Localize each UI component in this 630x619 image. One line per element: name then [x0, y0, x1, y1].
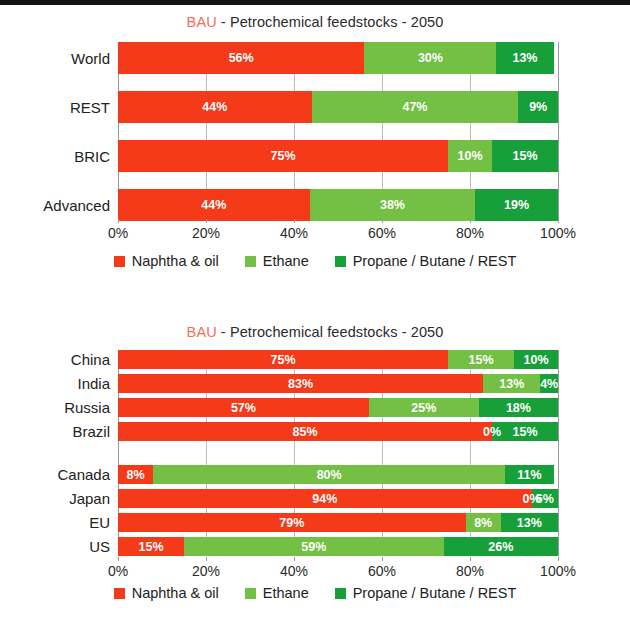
legend-swatch-icon — [245, 256, 256, 267]
axis-tick-label: 80% — [456, 563, 484, 579]
bar-segment: 15% — [118, 537, 184, 556]
bar-segment-label: 0% — [483, 425, 501, 439]
chart-row-spacer — [118, 446, 558, 465]
bar-segment: 15% — [448, 350, 514, 369]
legend-item-naphtha[interactable]: Naphtha & oil — [114, 253, 219, 269]
bar-segment: 13% — [501, 513, 558, 532]
bar-segment-label: 30% — [418, 51, 443, 65]
axis-tick-label: 40% — [280, 225, 308, 241]
bar-segment: 25% — [369, 398, 479, 417]
bar-segment-label: 75% — [270, 353, 295, 367]
bar-segment-label: 13% — [499, 377, 524, 391]
chart-bottom-title-accent: BAU — [187, 324, 217, 340]
category-label: BRIC — [6, 140, 118, 172]
axis-tick-label: 0% — [108, 563, 128, 579]
bar-segment: 9% — [518, 91, 558, 123]
bar-segment-label: 44% — [201, 198, 226, 212]
bar-segment: 57% — [118, 398, 369, 417]
category-label: World — [6, 42, 118, 74]
category-label: Japan — [6, 489, 118, 508]
bar-segment-label: 10% — [523, 353, 548, 367]
bar-segment: 44% — [118, 91, 312, 123]
bar-segment-label: 9% — [529, 100, 547, 114]
bar-segment-label: 18% — [506, 401, 531, 415]
bar-segment-label: 83% — [288, 377, 313, 391]
bar-segment: 15% — [492, 422, 558, 441]
chart-row: EU79%8%13% — [118, 513, 558, 532]
gridline-100 — [558, 42, 559, 221]
bar-segment-label: 44% — [202, 100, 227, 114]
chart-row: Brazil85%0%15% — [118, 422, 558, 441]
bar-segment-label: 15% — [512, 149, 537, 163]
bar-segment: 75% — [118, 140, 448, 172]
legend-item-ethane[interactable]: Ethane — [245, 585, 309, 601]
axis-tick-label: 80% — [456, 225, 484, 241]
chart-top-x-axis: 0%20%40%60%80%100% — [118, 223, 558, 245]
bar-segment: 85% — [118, 422, 492, 441]
chart-top-rows: World56%30%13%REST44%47%9%BRIC75%10%15%A… — [118, 42, 558, 221]
chart-row: Advanced44%38%19% — [118, 189, 558, 221]
legend-item-ethane[interactable]: Ethane — [245, 253, 309, 269]
bar-segment: 79% — [118, 513, 466, 532]
bar-segment: 8% — [466, 513, 501, 532]
axis-tick-label: 100% — [540, 225, 576, 241]
bar-segment: 30% — [364, 42, 496, 74]
axis-tick-label: 60% — [368, 225, 396, 241]
legend-item-propane[interactable]: Propane / Butane / REST — [335, 585, 517, 601]
bar-segment-label: 0% — [523, 492, 541, 506]
axis-tick-label: 60% — [368, 563, 396, 579]
axis-tick-mark — [206, 557, 207, 561]
category-label: Brazil — [6, 422, 118, 441]
legend-item-propane[interactable]: Propane / Butane / REST — [335, 253, 517, 269]
axis-tick-label: 20% — [192, 225, 220, 241]
axis-tick-mark — [118, 219, 119, 223]
legend-item-naphtha[interactable]: Naphtha & oil — [114, 585, 219, 601]
bar-segment-label: 56% — [229, 51, 254, 65]
bar-segment-label: 15% — [468, 353, 493, 367]
chart-bottom-title-rest: - Petrochemical feedstocks - 2050 — [217, 324, 444, 340]
chart-row: Russia57%25%18% — [118, 398, 558, 417]
bar-segment: 10% — [448, 140, 492, 172]
bar-segment: 10% — [514, 350, 558, 369]
chart-top-title-rest: - Petrochemical feedstocks - 2050 — [217, 14, 444, 30]
chart-row: Japan94%0%6% — [118, 489, 558, 508]
bar-segment-label: 10% — [457, 149, 482, 163]
legend-label: Naphtha & oil — [132, 253, 219, 269]
bar-segment-label: 38% — [380, 198, 405, 212]
chart-top-legend: Naphtha & oilEthanePropane / Butane / RE… — [0, 253, 630, 269]
chart-row: Canada8%80%11% — [118, 465, 558, 484]
bar-segment-label: 8% — [474, 516, 492, 530]
chart-row: US15%59%26% — [118, 537, 558, 556]
category-label: China — [6, 350, 118, 369]
chart-top-title-accent: BAU — [187, 14, 217, 30]
bar-segment-label: 85% — [292, 425, 317, 439]
chart-top-plot-area: World56%30%13%REST44%47%9%BRIC75%10%15%A… — [118, 42, 558, 221]
axis-tick-mark — [294, 557, 295, 561]
bar-segment-label: 4% — [540, 377, 558, 391]
axis-tick-mark — [382, 557, 383, 561]
chart-top: BAU - Petrochemical feedstocks - 2050 Wo… — [0, 14, 630, 269]
bar-segment: 15% — [492, 140, 558, 172]
bar-segment: 13% — [483, 374, 540, 393]
legend-swatch-icon — [245, 588, 256, 599]
chart-bottom-x-axis: 0%20%40%60%80%100% — [118, 561, 558, 583]
category-label: Canada — [6, 465, 118, 484]
chart-row: World56%30%13% — [118, 42, 558, 74]
legend-swatch-icon — [335, 256, 346, 267]
bar-segment: 75% — [118, 350, 448, 369]
category-label: US — [6, 537, 118, 556]
bar-segment: 19% — [475, 189, 558, 221]
bar-segment: 44% — [118, 189, 310, 221]
bar-segment-label: 19% — [504, 198, 529, 212]
legend-label: Naphtha & oil — [132, 585, 219, 601]
axis-tick-label: 100% — [540, 563, 576, 579]
bar-segment: 18% — [479, 398, 558, 417]
legend-label: Ethane — [263, 585, 309, 601]
legend-swatch-icon — [114, 588, 125, 599]
bar-segment-label: 57% — [231, 401, 256, 415]
axis-tick-mark — [294, 219, 295, 223]
chart-bottom-title: BAU - Petrochemical feedstocks - 2050 — [0, 324, 630, 340]
bar-segment-label: 94% — [312, 492, 337, 506]
bar-segment: 80% — [153, 465, 505, 484]
axis-tick-mark — [470, 219, 471, 223]
